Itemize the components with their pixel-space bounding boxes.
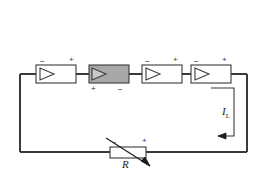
amplifier-3-minus-sign: − [145, 58, 150, 66]
circuit-schematic-svg [0, 0, 267, 176]
amplifier-4 [191, 65, 231, 83]
amplifier-3 [142, 65, 182, 83]
amplifier-2-plus-sign: + [91, 85, 96, 93]
amplifier-4-minus-sign: − [194, 58, 199, 66]
wire-network [20, 74, 247, 152]
load-current-label-subscript: L [226, 112, 230, 120]
load-current-arrowhead [218, 133, 226, 139]
amplifier-2-minus-sign: − [118, 86, 123, 94]
amplifier-3-plus-sign: + [173, 56, 178, 64]
amplifier-4-plus-sign: + [222, 56, 227, 64]
amplifier-1-plus-sign: + [69, 56, 74, 64]
amplifier-2 [89, 65, 129, 83]
amplifier-1 [36, 65, 76, 83]
variable-resistor-minus-sign: − [112, 139, 117, 147]
circuit-diagram-figure: − + + − − + − + − + R IL [0, 0, 267, 176]
amplifier-1-minus-sign: − [40, 58, 45, 66]
variable-resistor-label: R [122, 159, 129, 170]
variable-resistor-plus-sign: + [142, 137, 147, 145]
load-current-label: IL [222, 106, 230, 122]
